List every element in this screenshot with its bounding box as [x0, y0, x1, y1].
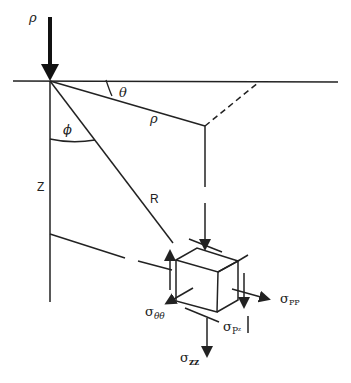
z-label: Z — [37, 180, 44, 194]
bottom-face-tick — [185, 308, 219, 322]
phi-label: ϕ — [63, 122, 72, 137]
sigma-zz-label: σzz — [180, 350, 199, 367]
depth-line-left — [50, 234, 125, 258]
sigma-pz-label: σPᶻ — [223, 319, 241, 336]
sigma-thetatheta-arrow — [167, 288, 193, 303]
depth-line-right — [138, 261, 172, 270]
R-label: R — [150, 192, 159, 206]
R-line — [50, 81, 173, 243]
load-label: ρ — [28, 10, 37, 25]
rho-line — [50, 81, 205, 126]
corner-tick — [238, 255, 248, 261]
sigma-pp-label: σPP — [280, 291, 300, 307]
phi-arc — [50, 139, 95, 142]
sigma-thetatheta-label: σθθ — [145, 304, 165, 321]
stress-element-cube — [176, 248, 238, 312]
stress-diagram: ρ θ ρ R ϕ Z σθθ σPP σzz σPᶻ — [0, 0, 351, 383]
projection-dashed-line — [205, 82, 259, 126]
rho-label: ρ — [149, 111, 158, 126]
ground-surface-line — [13, 81, 338, 82]
theta-label: θ — [119, 85, 127, 100]
point-load-arrow — [41, 17, 59, 81]
theta-arc — [106, 80, 112, 96]
